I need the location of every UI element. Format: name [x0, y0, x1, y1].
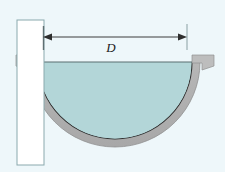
- figure-container: D: [0, 0, 225, 172]
- dimension-label-D: D: [105, 40, 116, 55]
- hemispherical-tank-diagram: D: [0, 0, 225, 172]
- vertical-support-wall: [17, 20, 44, 165]
